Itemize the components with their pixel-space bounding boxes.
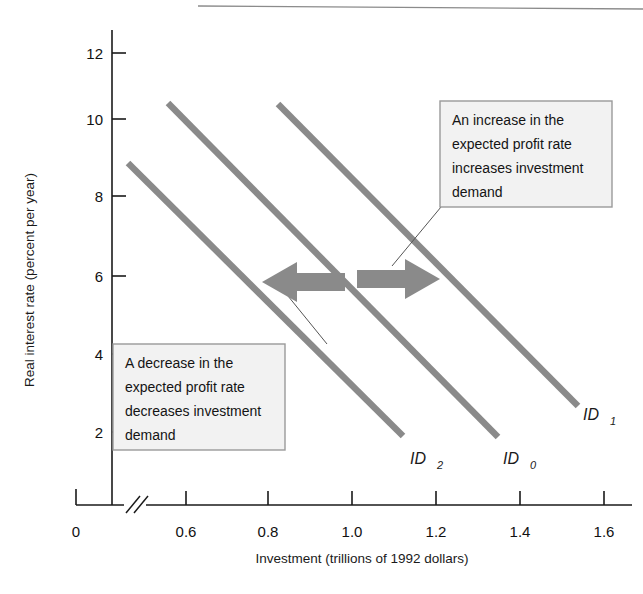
- x-tick-label-1.2: 1.2: [426, 523, 447, 540]
- increase-callout-line-3: increases investment: [452, 160, 584, 176]
- x-axis-title: Investment (trillions of 1992 dollars): [255, 551, 468, 566]
- curve-label-ID1: ID 1: [583, 406, 616, 427]
- x-tick-label-1.0: 1.0: [342, 523, 363, 540]
- axis-break-icon: [124, 496, 148, 513]
- y-axis-title: Real interest rate (percent per year): [22, 173, 37, 387]
- y-tick-label-12: 12: [86, 45, 103, 62]
- increase-callout-line-1: An increase in the: [452, 112, 564, 128]
- investment-demand-figure: 12 10 8 6 4 2 0 0.6 0.8 1.0 1.2 1.4 1.6 …: [0, 0, 643, 594]
- x-tick-labels: 0 0.6 0.8 1.0 1.2 1.4 1.6: [72, 523, 615, 540]
- curve-label-ID2-text: ID: [410, 450, 426, 467]
- decrease-callout-line-4: demand: [125, 427, 176, 443]
- origin-label: 0: [72, 523, 80, 540]
- curve-label-ID1-subscript: 1: [610, 415, 616, 427]
- shift-right-arrow: [357, 259, 440, 299]
- decrease-callout-line-3: decreases investment: [125, 403, 261, 419]
- curve-label-ID0-subscript: 0: [530, 459, 537, 471]
- y-tick-label-8: 8: [95, 188, 103, 205]
- decrease-callout: A decrease in the expected profit rate d…: [113, 344, 285, 450]
- x-tick-label-0.6: 0.6: [176, 523, 197, 540]
- x-tick-label-0.8: 0.8: [258, 523, 279, 540]
- curve-label-ID2-subscript: 2: [436, 459, 443, 471]
- increase-callout: An increase in the expected profit rate …: [440, 101, 612, 207]
- decrease-callout-line-1: A decrease in the: [125, 355, 233, 371]
- scan-artifact-line: [198, 6, 643, 9]
- curve-label-ID0-text: ID: [503, 450, 519, 467]
- y-tick-label-4: 4: [95, 346, 103, 363]
- y-tick-labels: 12 10 8 6 4 2: [86, 45, 103, 441]
- increase-callout-line-4: demand: [452, 184, 503, 200]
- x-tick-label-1.4: 1.4: [510, 523, 531, 540]
- curve-label-ID1-text: ID: [583, 406, 599, 423]
- y-tick-label-6: 6: [95, 268, 103, 285]
- decrease-callout-line-2: expected profit rate: [125, 379, 245, 395]
- increase-callout-line-2: expected profit rate: [452, 136, 572, 152]
- curve-label-ID0: ID 0: [503, 450, 537, 471]
- y-tick-label-10: 10: [86, 111, 103, 128]
- x-tick-label-1.6: 1.6: [594, 523, 615, 540]
- y-tick-label-2: 2: [95, 424, 103, 441]
- curve-label-ID2: ID 2: [410, 450, 443, 471]
